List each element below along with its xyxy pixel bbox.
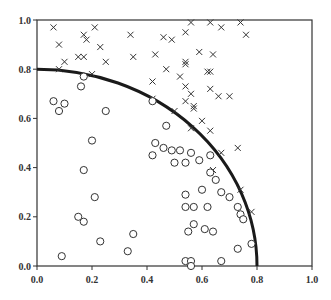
o-marker <box>77 83 84 90</box>
x-marker <box>81 54 87 60</box>
x-marker <box>97 44 103 50</box>
o-marker <box>80 73 87 80</box>
o-marker <box>149 98 156 105</box>
x-marker <box>62 59 68 65</box>
o-marker <box>80 166 87 173</box>
x-marker <box>51 24 57 30</box>
x-marker <box>161 34 167 40</box>
o-marker <box>190 221 197 228</box>
x-marker <box>218 24 224 30</box>
o-marker <box>234 245 241 252</box>
y-tick-label: 1.0 <box>19 15 32 26</box>
o-marker <box>185 228 192 235</box>
o-marker <box>190 203 197 210</box>
o-marker <box>61 100 68 107</box>
o-marker <box>163 122 170 129</box>
x-marker <box>56 42 62 48</box>
o-marker <box>248 240 255 247</box>
o-marker <box>204 203 211 210</box>
x-marker <box>92 24 98 30</box>
series-inside-markers <box>50 73 255 270</box>
o-marker <box>80 218 87 225</box>
o-marker <box>196 157 203 164</box>
series-outside-markers <box>51 19 255 214</box>
o-marker <box>152 139 159 146</box>
x-marker <box>227 93 233 99</box>
x-tick-label: 0.4 <box>141 274 154 285</box>
x-marker <box>130 54 136 60</box>
scatter-chart: 0.00.20.40.60.81.0 0.00.20.40.60.81.0 <box>0 0 331 300</box>
x-marker <box>207 86 213 92</box>
y-tick-label: 0.2 <box>19 211 32 222</box>
o-marker <box>55 107 62 114</box>
o-marker <box>88 137 95 144</box>
x-marker <box>183 83 189 89</box>
x-marker <box>188 91 194 97</box>
y-tick-label: 0.6 <box>19 113 32 124</box>
y-tick-label: 0.0 <box>19 261 32 272</box>
x-marker <box>196 49 202 55</box>
x-marker <box>169 37 175 43</box>
x-marker <box>103 59 109 65</box>
o-marker <box>212 176 219 183</box>
o-marker <box>171 159 178 166</box>
o-marker <box>198 186 205 193</box>
o-marker <box>102 107 109 114</box>
o-marker <box>226 194 233 201</box>
x-marker <box>210 51 216 57</box>
x-tick-label: 0.6 <box>196 274 209 285</box>
o-marker <box>182 203 189 210</box>
o-marker <box>234 203 241 210</box>
x-marker <box>128 32 134 38</box>
o-marker <box>91 194 98 201</box>
x-marker <box>243 32 249 38</box>
o-marker <box>149 152 156 159</box>
o-marker <box>201 226 208 233</box>
x-marker <box>150 79 156 85</box>
o-marker <box>187 149 194 156</box>
o-marker <box>130 230 137 237</box>
o-marker <box>97 238 104 245</box>
y-axis-ticks: 0.00.20.40.60.81.0 <box>19 15 38 272</box>
y-tick-label: 0.4 <box>19 162 32 173</box>
x-marker <box>207 128 213 134</box>
o-marker <box>218 257 225 264</box>
x-tick-label: 0.0 <box>31 274 44 285</box>
x-marker <box>199 118 205 124</box>
x-marker <box>163 66 169 72</box>
x-marker <box>183 29 189 35</box>
x-marker <box>152 51 158 57</box>
x-marker <box>75 54 81 60</box>
x-marker <box>216 93 222 99</box>
x-tick-label: 0.8 <box>251 274 264 285</box>
x-marker <box>218 150 224 156</box>
o-marker <box>207 169 214 176</box>
x-marker <box>183 98 189 104</box>
o-marker <box>182 159 189 166</box>
o-marker <box>182 191 189 198</box>
o-marker <box>168 147 175 154</box>
x-marker <box>177 74 183 80</box>
o-marker <box>240 216 247 223</box>
o-marker <box>124 248 131 255</box>
o-marker <box>207 152 214 159</box>
o-marker <box>218 189 225 196</box>
x-axis-ticks: 0.00.20.40.60.81.0 <box>31 266 319 285</box>
o-marker <box>58 253 65 260</box>
o-marker <box>209 228 216 235</box>
x-tick-label: 0.2 <box>86 274 99 285</box>
quarter-circle-arc <box>37 69 257 266</box>
o-marker <box>176 147 183 154</box>
x-marker <box>235 145 241 151</box>
o-marker <box>50 98 57 105</box>
o-marker <box>160 144 167 151</box>
y-tick-label: 0.8 <box>19 64 32 75</box>
o-marker <box>187 262 194 269</box>
x-tick-label: 1.0 <box>306 274 319 285</box>
